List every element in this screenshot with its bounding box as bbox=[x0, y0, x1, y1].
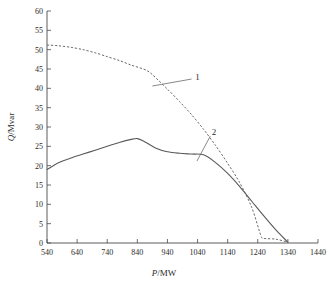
curve-label-2: 2 bbox=[212, 127, 217, 137]
y-axis-ticks: 051015202530354045505560 bbox=[35, 7, 51, 248]
x-axis-tick-label: 1340 bbox=[280, 248, 296, 257]
chart-figure: 051015202530354045505560 540640740840940… bbox=[0, 0, 328, 285]
axes-group bbox=[47, 11, 318, 243]
x-axis-tick-label: 1240 bbox=[250, 248, 266, 257]
curve-label-1: 1 bbox=[195, 72, 200, 82]
y-axis-tick-label: 15 bbox=[35, 181, 43, 190]
y-axis-tick-label: 30 bbox=[35, 123, 43, 132]
y-axis-tick-label: 40 bbox=[35, 84, 43, 93]
y-axis-tick-label: 60 bbox=[35, 7, 43, 16]
y-axis-tick-label: 10 bbox=[35, 200, 43, 209]
y-axis-tick-label: 35 bbox=[35, 104, 43, 113]
y-axis-tick-label: 20 bbox=[35, 162, 43, 171]
x-axis-tick-label: 940 bbox=[161, 248, 173, 257]
data-series-group bbox=[47, 45, 288, 242]
y-axis-tick-label: 55 bbox=[35, 26, 43, 35]
x-axis-title: P/MW bbox=[151, 268, 177, 278]
y-axis-tick-label: 0 bbox=[39, 239, 43, 248]
data-series-curve-1 bbox=[47, 45, 288, 242]
y-axis-tick-label: 50 bbox=[35, 46, 43, 55]
y-axis-title: Q/Mvar bbox=[6, 113, 16, 142]
x-axis-tick-label: 540 bbox=[41, 248, 53, 257]
curve-annotations-group: 12 bbox=[152, 72, 216, 161]
y-axis-tick-label: 45 bbox=[35, 65, 43, 74]
x-axis-tick-label: 740 bbox=[101, 248, 113, 257]
curve-label-leader-line-1 bbox=[152, 79, 191, 86]
x-axis-tick-label: 1040 bbox=[190, 248, 206, 257]
x-axis-tick-label: 1440 bbox=[310, 248, 326, 257]
x-axis-tick-label: 840 bbox=[131, 248, 143, 257]
chart-plot-area: 051015202530354045505560 540640740840940… bbox=[0, 0, 328, 285]
x-axis-ticks: 54064074084094010401140124013401440 bbox=[41, 239, 326, 257]
x-axis-tick-label: 640 bbox=[71, 248, 83, 257]
data-series-curve-2 bbox=[47, 139, 288, 243]
y-axis-tick-label: 5 bbox=[39, 220, 43, 229]
axis-titles-group: P/MW Q/Mvar bbox=[6, 113, 177, 278]
x-axis-tick-label: 1140 bbox=[220, 248, 236, 257]
y-axis-tick-label: 25 bbox=[35, 142, 43, 151]
